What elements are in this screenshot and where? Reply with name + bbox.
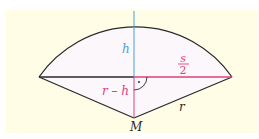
center-distance-label: r – h xyxy=(102,84,129,98)
center-point-label: M xyxy=(129,120,143,134)
radius-label: r xyxy=(179,100,186,114)
half-chord-denominator: 2 xyxy=(180,64,187,77)
height-label: h xyxy=(122,42,130,56)
sector-fill xyxy=(39,27,232,118)
circular-segment-diagram: h s 2 r – h r M xyxy=(0,0,259,139)
right-angle-dot-icon xyxy=(138,81,140,83)
